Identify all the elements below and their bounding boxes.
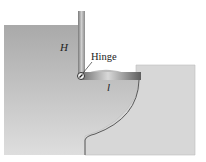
horizontal-gate <box>81 72 141 80</box>
hinged-gate-diagram: H Hinge l <box>0 0 206 162</box>
vertical-gate <box>78 11 85 76</box>
length-label: l <box>107 81 110 93</box>
height-label: H <box>59 41 69 53</box>
hinge-label: Hinge <box>91 51 117 62</box>
